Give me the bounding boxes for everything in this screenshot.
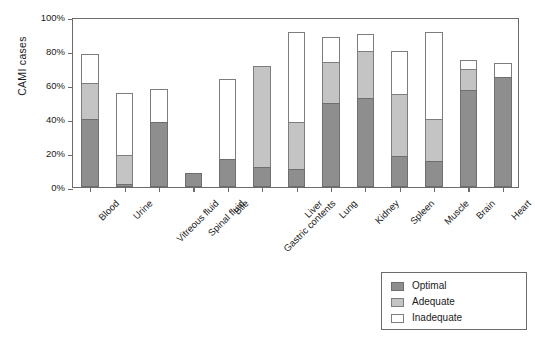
stacked-bar — [425, 32, 443, 187]
stacked-bar — [253, 66, 271, 187]
y-tick-label: 40% — [46, 114, 65, 125]
bar-segment-optimal — [219, 159, 237, 187]
stacked-bar — [185, 173, 203, 187]
stacked-bar — [288, 32, 306, 187]
stacked-bar — [81, 54, 99, 187]
bar-column — [150, 19, 168, 187]
legend-label: Optimal — [412, 281, 446, 291]
x-tick-mark — [193, 187, 194, 192]
bar-column — [322, 19, 340, 187]
x-tick-mark — [90, 187, 91, 192]
x-tick-label: Kidney — [373, 198, 401, 226]
legend-label: Inadequate — [412, 313, 462, 323]
legend-item: Adequate — [391, 294, 526, 310]
bar-column — [391, 19, 409, 187]
x-tick-mark — [365, 187, 366, 192]
bar-column — [357, 19, 375, 187]
x-tick-mark — [228, 187, 229, 192]
bar-segment-inadequate — [81, 54, 99, 84]
y-tick-label: 60% — [46, 80, 65, 91]
x-tick-label: Lung — [336, 198, 359, 221]
bar-column — [460, 19, 478, 187]
bar-segment-optimal — [322, 103, 340, 187]
bar-segment-optimal — [494, 77, 512, 188]
bar-column — [425, 19, 443, 187]
y-axis-title: CAMI cases — [16, 6, 28, 126]
legend-swatch-inadequate — [391, 314, 404, 323]
stacked-bar — [357, 34, 375, 187]
bar-segment-inadequate — [116, 93, 134, 155]
bar-segment-adequate — [357, 51, 375, 98]
bar-segment-optimal — [288, 169, 306, 187]
x-tick-label: Muscle — [442, 198, 471, 227]
bar-segment-adequate — [425, 119, 443, 161]
bar-segment-optimal — [185, 173, 203, 187]
x-tick-label: Spleen — [407, 198, 436, 227]
stacked-bar — [322, 37, 340, 187]
bar-group — [73, 19, 518, 187]
bar-segment-optimal — [81, 119, 99, 187]
bar-segment-optimal — [425, 161, 443, 187]
x-tick-label: Blood — [96, 198, 121, 223]
y-tick-label: 100% — [41, 12, 65, 23]
stacked-bar — [494, 63, 512, 187]
y-tick-label: 20% — [46, 148, 65, 159]
bar-segment-inadequate — [288, 32, 306, 122]
legend-item: Inadequate — [391, 310, 526, 326]
bar-segment-optimal — [460, 90, 478, 187]
bar-segment-inadequate — [494, 63, 512, 77]
bar-segment-adequate — [116, 155, 134, 184]
x-tick-mark — [125, 187, 126, 192]
bar-column — [494, 19, 512, 187]
stacked-bar — [150, 89, 168, 187]
plot-area: 0%20%40%60%80%100% — [72, 18, 519, 188]
stacked-bar — [391, 51, 409, 187]
bar-segment-adequate — [253, 66, 271, 167]
bar-segment-optimal — [150, 122, 168, 187]
bar-segment-inadequate — [425, 32, 443, 119]
bar-segment-optimal — [357, 98, 375, 187]
bar-column — [219, 19, 237, 187]
bar-segment-inadequate — [322, 37, 340, 62]
bar-segment-optimal — [391, 156, 409, 187]
bar-segment-adequate — [81, 83, 99, 119]
y-tick-label: 80% — [46, 46, 65, 57]
x-tick-mark — [468, 187, 469, 192]
bar-segment-adequate — [322, 62, 340, 103]
bar-column — [81, 19, 99, 187]
x-tick-label: Heart — [509, 198, 533, 222]
bar-column — [185, 19, 203, 187]
bar-segment-inadequate — [391, 51, 409, 94]
bar-segment-inadequate — [357, 34, 375, 51]
bar-column — [253, 19, 271, 187]
bar-segment-adequate — [460, 69, 478, 90]
bar-segment-inadequate — [219, 79, 237, 159]
bar-column — [116, 19, 134, 187]
legend-label: Adequate — [412, 297, 455, 307]
x-tick-mark — [262, 187, 263, 192]
legend-swatch-adequate — [391, 298, 404, 307]
y-tick-mark — [68, 189, 73, 190]
stacked-bar — [460, 60, 478, 187]
bar-segment-adequate — [391, 94, 409, 156]
bar-column — [288, 19, 306, 187]
x-tick-mark — [503, 187, 504, 192]
y-tick-label: 0% — [51, 182, 65, 193]
bar-segment-inadequate — [150, 89, 168, 122]
legend-item: Optimal — [391, 278, 526, 294]
x-tick-label: Brain — [474, 198, 497, 221]
x-tick-mark — [159, 187, 160, 192]
chart-canvas: CAMI cases 0%20%40%60%80%100% BloodUrine… — [0, 0, 535, 337]
x-tick-label: Urine — [130, 198, 154, 222]
x-tick-mark — [331, 187, 332, 192]
x-tick-mark — [400, 187, 401, 192]
chart-legend: OptimalAdequateInadequate — [381, 272, 527, 330]
legend-swatch-optimal — [391, 282, 404, 291]
x-tick-mark — [297, 187, 298, 192]
bar-segment-optimal — [253, 167, 271, 187]
stacked-bar — [116, 93, 134, 187]
bar-segment-inadequate — [460, 60, 478, 69]
x-tick-mark — [434, 187, 435, 192]
stacked-bar — [219, 79, 237, 187]
bar-segment-adequate — [288, 122, 306, 169]
